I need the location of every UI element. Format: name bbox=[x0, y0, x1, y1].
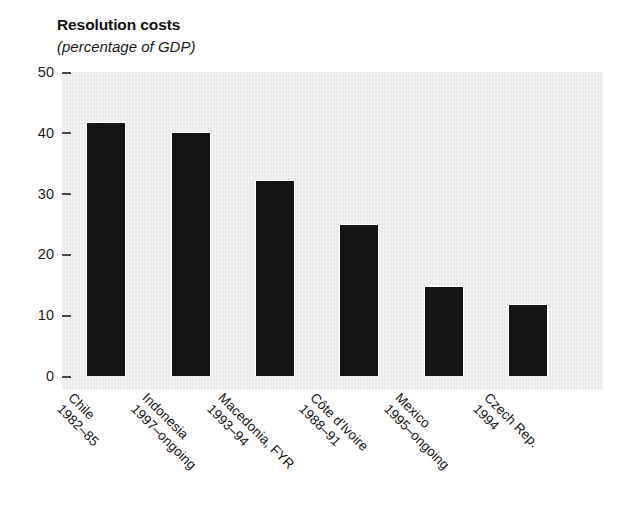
x-tick-label-macedonia: Macedonia, FYR 1993–94 bbox=[203, 390, 297, 484]
y-tick-label-20: 20 bbox=[0, 246, 54, 262]
chart-title: Resolution costs bbox=[57, 16, 180, 34]
bar bbox=[340, 225, 378, 376]
y-tick-mark-0 bbox=[62, 376, 71, 378]
x-axis-labels: Chile 1982–85 Indonesia 1997–ongoing Mac… bbox=[0, 390, 628, 521]
y-tick-label-10: 10 bbox=[0, 307, 54, 323]
bar bbox=[509, 305, 547, 376]
bar bbox=[256, 181, 294, 376]
y-tick-mark-30 bbox=[62, 193, 71, 195]
y-tick-mark-20 bbox=[62, 254, 71, 256]
y-tick-label-30: 30 bbox=[0, 186, 54, 202]
y-tick-label-0: 0 bbox=[0, 368, 54, 384]
x-tick-label-czech-rep: Czech Rep. 1994 bbox=[469, 390, 542, 463]
x-tick-label-chile: Chile 1982–85 bbox=[53, 390, 113, 450]
y-tick-mark-10 bbox=[62, 315, 71, 317]
x-tick-label-cote-divoire: Côte d'Ivoire 1988–91 bbox=[295, 390, 371, 466]
plot-area bbox=[62, 72, 603, 390]
y-tick-label-40: 40 bbox=[0, 125, 54, 141]
bar bbox=[172, 133, 210, 376]
y-tick-mark-50 bbox=[62, 72, 71, 74]
chart-subtitle: (percentage of GDP) bbox=[57, 38, 195, 55]
y-tick-mark-40 bbox=[62, 132, 71, 134]
bar bbox=[87, 123, 125, 376]
bar bbox=[425, 287, 463, 376]
x-tick-label-indonesia: Indonesia 1997–ongoing bbox=[127, 390, 210, 473]
y-tick-label-50: 50 bbox=[0, 64, 54, 80]
x-tick-label-mexico: Mexico 1995–ongoing bbox=[380, 390, 463, 473]
